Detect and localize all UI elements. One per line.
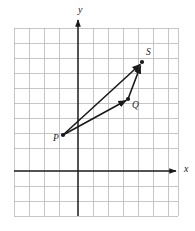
- vector-diagram-figure: y x P Q S: [0, 0, 195, 231]
- point-marker-P: [61, 133, 65, 137]
- point-marker-Q: [126, 97, 130, 101]
- point-label-S: S: [146, 48, 151, 58]
- point-label-Q: Q: [132, 101, 139, 111]
- grid-lines: [14, 28, 178, 216]
- y-axis-label: y: [78, 5, 82, 15]
- coordinate-plane-canvas: [0, 0, 195, 231]
- vector-arrow-QS: [128, 66, 141, 99]
- point-marker-S: [140, 60, 144, 64]
- point-label-P: P: [53, 134, 59, 144]
- x-axis-label: x: [184, 164, 188, 174]
